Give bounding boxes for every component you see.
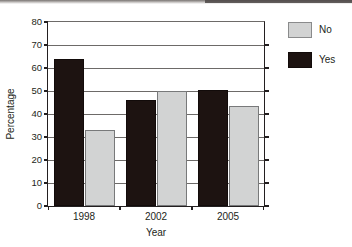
- y-tick-50: [44, 90, 48, 91]
- y-tick-20: [44, 159, 48, 160]
- bar-1998-yes: [54, 59, 84, 206]
- bar-chart-figure: Percentage 01020304050607080199820022005…: [0, 0, 352, 247]
- y-tick-70: [44, 44, 48, 45]
- y-tick-label-60: 60: [31, 63, 42, 73]
- x-axis-title: Year: [47, 228, 265, 238]
- chart-legend: No Yes: [288, 21, 350, 81]
- legend-item-yes: Yes: [288, 51, 350, 68]
- x-tick-3: [263, 206, 264, 210]
- bar-2002-no: [157, 91, 187, 206]
- y-tick-label-10: 10: [31, 178, 42, 188]
- y-tick-label-70: 70: [31, 40, 42, 50]
- y-tick-right-0: [264, 205, 269, 206]
- bar-1998-no: [85, 130, 115, 206]
- legend-label-no: No: [319, 25, 332, 35]
- x-tick-0: [48, 206, 49, 210]
- y-tick-right-10: [264, 182, 269, 183]
- y-tick-label-80: 80: [31, 17, 42, 27]
- y-tick-30: [44, 136, 48, 137]
- y-tick-label-30: 30: [31, 132, 42, 142]
- x-tick-1: [119, 206, 120, 210]
- x-tick-label-2002: 2002: [145, 212, 167, 222]
- x-tick-label-2005: 2005: [217, 212, 239, 222]
- x-tick-2: [191, 206, 192, 210]
- y-tick-right-50: [264, 90, 269, 91]
- y-tick-right-40: [264, 113, 269, 114]
- bar-2002-yes: [126, 100, 156, 206]
- plot-area: 01020304050607080199820022005: [47, 21, 265, 207]
- legend-swatch-yes-icon: [288, 52, 312, 68]
- y-tick-80: [44, 21, 48, 22]
- y-tick-right-20: [264, 159, 269, 160]
- bar-2005-yes: [198, 90, 228, 206]
- y-tick-40: [44, 113, 48, 114]
- y-tick-label-40: 40: [31, 109, 42, 119]
- y-tick-right-70: [264, 44, 269, 45]
- y-tick-60: [44, 67, 48, 68]
- y-tick-right-30: [264, 136, 269, 137]
- y-axis-title: Percentage: [6, 62, 16, 166]
- y-tick-right-60: [264, 67, 269, 68]
- y-tick-10: [44, 182, 48, 183]
- y-tick-label-0: 0: [37, 201, 42, 211]
- legend-label-yes: Yes: [319, 55, 335, 65]
- legend-swatch-no-icon: [288, 22, 312, 38]
- legend-item-no: No: [288, 21, 350, 38]
- bar-2005-no: [229, 106, 259, 206]
- x-tick-label-1998: 1998: [73, 212, 95, 222]
- y-tick-label-50: 50: [31, 86, 42, 96]
- y-tick-label-20: 20: [31, 155, 42, 165]
- gridline-70: [48, 45, 264, 46]
